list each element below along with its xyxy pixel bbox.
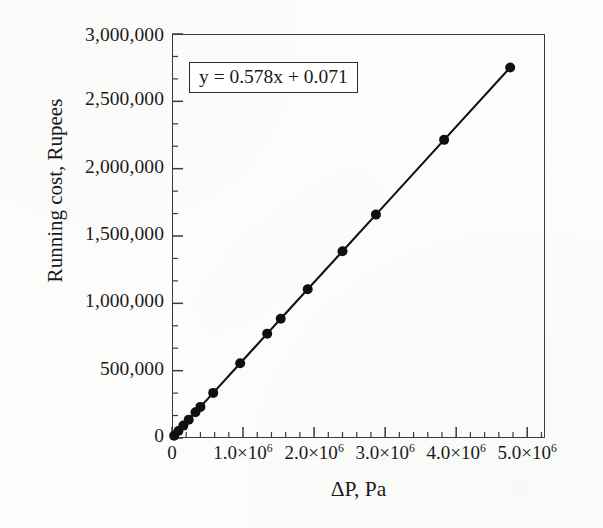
y-tick-label: 2,500,000 [85,89,164,109]
y-axis-title: Running cost, Rupees [43,41,68,341]
x-axis-major-ticks [172,427,527,438]
data-point [208,388,218,398]
data-point [303,284,313,294]
data-point [439,135,449,145]
regression-equation-annotation: y = 0.578x + 0.071 [189,62,358,93]
data-point [195,402,205,412]
y-tick-label: 3,000,000 [85,25,164,45]
x-axis-minor-ticks [186,432,541,438]
data-point [505,63,515,73]
chart-figure: 0 500,000 1,000,000 1,500,000 2,000,000 … [0,0,603,528]
data-point [235,358,245,368]
y-tick-label: 500,000 [100,359,164,379]
data-point [371,210,381,220]
x-axis-title: ΔP, Pa [172,477,545,502]
plot-canvas [172,34,545,438]
data-point [276,314,286,324]
y-axis-major-ticks [172,34,183,438]
data-point [184,415,194,425]
data-point [338,246,348,256]
y-tick-label: 1,000,000 [85,291,164,311]
data-point [262,329,272,339]
y-tick-label: 1,500,000 [85,224,164,244]
y-tick-label: 2,000,000 [85,157,164,177]
x-axis-tick-labels: 01.0×1062.0×1063.0×1064.0×1065.0×106 [0,443,603,477]
x-tick-label: 5.0×106 [482,443,572,462]
